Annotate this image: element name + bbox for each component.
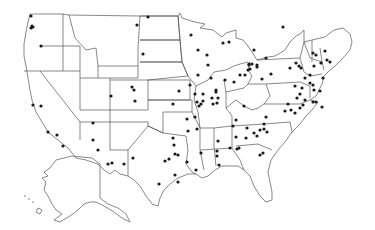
location-dot [269,72,272,75]
location-dot [39,44,42,47]
location-dot [188,83,191,86]
location-dot [289,108,292,111]
location-dot [173,152,176,155]
location-dot [194,168,197,171]
location-dot [216,139,219,142]
location-dot [319,61,322,64]
location-dot [201,99,204,102]
location-dot [176,180,179,183]
location-dot [196,73,199,76]
location-dot [245,126,248,129]
location-dot [176,153,179,156]
location-dot [301,103,304,106]
location-dot [199,102,202,105]
location-dot [205,53,208,56]
location-dot [308,81,311,84]
location-dot [238,73,241,76]
location-dot [215,154,218,157]
location-dot [320,105,323,108]
location-dot [173,173,176,176]
location-dot [193,115,196,118]
location-dot [196,48,199,51]
location-dot [29,26,32,29]
location-dot [186,129,189,132]
location-dot [55,133,58,136]
location-dot [171,136,174,139]
location-dot [133,99,136,102]
location-dot [293,84,296,87]
location-dot [171,102,174,105]
location-dot [234,135,237,138]
location-dot [243,73,246,76]
location-dot [260,77,263,80]
location-dot [295,96,298,99]
location-dot [223,78,226,81]
location-dot [146,15,149,18]
location-dot [234,118,237,121]
location-dot [231,124,234,127]
us-map [0,0,375,230]
location-dot [157,182,160,185]
location-dot [311,100,314,103]
location-dot [244,136,247,139]
location-dot [29,14,32,17]
location-dot [195,100,198,103]
location-dot [308,73,311,76]
location-dot [262,122,265,125]
location-dot [314,53,317,56]
location-dot [242,104,245,107]
location-dot [215,149,218,152]
location-dot [216,96,219,99]
location-dot [172,143,175,146]
location-dot [195,127,198,130]
location-dot [299,66,302,69]
location-dot [185,117,188,120]
location-dot [109,94,112,97]
location-dot [311,51,314,54]
location-dot [252,131,255,134]
location-dot [250,62,253,65]
location-dot [294,61,297,64]
location-dot [61,144,64,147]
location-dot [314,100,317,103]
location-dot [312,64,315,67]
state-borders [24,13,352,222]
location-dot [303,98,306,101]
location-dot [106,162,109,165]
location-dot [311,83,314,86]
location-dot [286,102,289,105]
location-dot [130,85,133,88]
location-dot [135,23,138,26]
location-dot [96,148,99,151]
location-dot [214,88,217,91]
location-dot [193,92,196,95]
location-dot [264,115,267,118]
location-dot [300,86,303,89]
location-dot [217,163,220,166]
location-dot [255,134,258,137]
location-dot [252,48,255,51]
location-dot [167,157,170,160]
location-dot [211,102,214,105]
location-dot [262,127,265,130]
location-dot [227,40,230,43]
location-dot [163,159,166,162]
location-dot [39,104,42,107]
location-dot [206,63,209,66]
location-dot [318,89,321,92]
location-dot [283,109,286,112]
location-dot [328,60,331,63]
location-dot [288,66,291,69]
location-dot [325,58,328,61]
location-dot [141,52,144,55]
location-dot [177,89,180,92]
location-dot [303,76,306,79]
location-dot [228,146,231,149]
location-dot [201,92,204,95]
location-dot [185,160,188,163]
location-dot [293,111,296,114]
location-dot [255,63,258,66]
location-dot [321,76,324,79]
location-dot [209,76,212,79]
location-dot [265,130,268,133]
